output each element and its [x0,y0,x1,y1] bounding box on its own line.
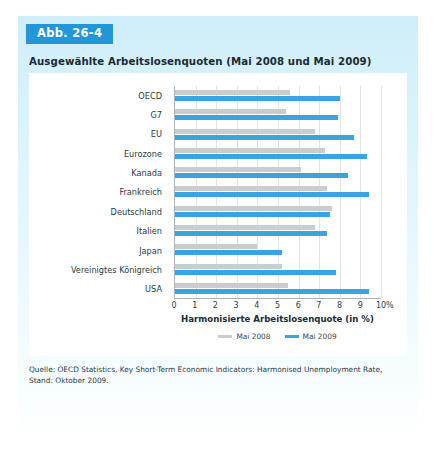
bar-2008 [175,264,282,269]
category-label: Frankreich [33,183,168,202]
x-tick-label: 7 [316,301,321,310]
bar-2008 [175,244,257,249]
bar-group [175,125,381,144]
x-tick-label: 8 [337,301,342,310]
bar-2009 [175,270,336,275]
category-label: Eurozone [33,144,168,163]
legend-label: Mai 2008 [236,332,270,341]
bar-2008 [175,186,327,191]
bar-2009 [175,212,330,217]
bar-2009 [175,173,348,178]
bar-2008 [175,90,290,95]
legend-item: Mai 2009 [285,332,337,341]
bar-2009 [175,231,327,236]
x-tick-label: 2 [213,301,218,310]
x-axis-title: Harmonisierte Arbeitslosenquote (in %) [174,314,381,324]
bar-2009 [175,115,338,120]
gridline [381,86,382,298]
category-axis-labels: OECDG7EUEurozoneKanadaFrankreichDeutschl… [33,86,168,299]
figure-title: Ausgewählte Arbeitslosenquoten (Mai 2008… [29,56,372,67]
bar-2008 [175,283,288,288]
category-label: OECD [33,86,168,105]
bar-2009 [175,154,367,159]
legend-swatch-icon [285,335,299,338]
legend-item: Mai 2008 [218,332,270,341]
bar-group [175,182,381,201]
plot-area [174,86,381,299]
x-tick-label: 9 [358,301,363,310]
bar-2009 [175,135,354,140]
legend-label: Mai 2009 [303,332,337,341]
x-axis-ticks: 012345678910 [174,301,381,313]
bar-group [175,221,381,240]
bar-group [175,259,381,278]
bar-2009 [175,96,340,101]
category-label: USA [33,280,168,299]
bar-rows [175,86,381,298]
x-tick-label: 5 [275,301,280,310]
category-label: Deutschland [33,202,168,221]
chart-legend: Mai 2008Mai 2009 [174,332,381,341]
bar-2008 [175,206,332,211]
bar-group [175,240,381,259]
bar-2008 [175,109,286,114]
x-tick-label: 0 [171,301,176,310]
bar-2009 [175,250,282,255]
x-tick-label: 4 [254,301,259,310]
source-note: Quelle: OECD Statistics, Key Short-Term … [29,364,389,387]
category-label: EU [33,125,168,144]
x-tick-label: 6 [296,301,301,310]
bar-2009 [175,289,369,294]
bar-group [175,105,381,124]
figure-badge: Abb. 26-4 [26,24,113,44]
category-label: Japan [33,241,168,260]
category-label: G7 [33,105,168,124]
bar-2008 [175,148,325,153]
chart-card: OECDG7EUEurozoneKanadaFrankreichDeutschl… [29,73,407,356]
figure-panel: Abb. 26-4 Ausgewählte Arbeitslosenquoten… [18,16,418,430]
x-tick-label: 1 [192,301,197,310]
bar-group [175,279,381,298]
bar-group [175,86,381,105]
bar-group [175,202,381,221]
bar-2009 [175,192,369,197]
legend-swatch-icon [218,335,232,338]
bar-chart: OECDG7EUEurozoneKanadaFrankreichDeutschl… [29,73,407,356]
category-label: Italien [33,222,168,241]
x-tick-label: 10 [376,301,386,310]
bar-group [175,163,381,182]
bar-2008 [175,167,301,172]
category-label: Kanada [33,163,168,182]
x-axis-unit: % [386,301,394,310]
x-tick-label: 3 [234,301,239,310]
bar-2008 [175,129,315,134]
category-label: Vereinigtes Königreich [33,260,168,279]
bar-2008 [175,225,315,230]
bar-group [175,144,381,163]
